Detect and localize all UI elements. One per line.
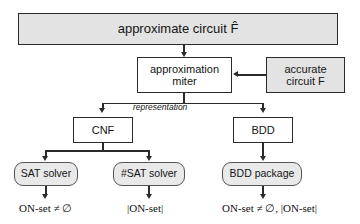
node-sat-solver-label: SAT solver [21, 168, 71, 180]
output-bdd-result: ON-set ≠ ∅, |ON-set| [222, 202, 317, 215]
node-cnf[interactable]: CNF [73, 117, 133, 143]
node-approximation-miter-line1: approximation [150, 63, 219, 75]
arrowhead-bdd-package-to-result [260, 194, 266, 199]
node-sat-solver[interactable]: SAT solver [14, 162, 78, 186]
arrowhead-cnf-to-sat [42, 156, 48, 161]
node-bdd[interactable]: BDD [233, 117, 293, 143]
node-approximate-circuit[interactable]: approximate circuit F̂ [18, 13, 338, 45]
output-sharp-sat-result: |ON-set| [127, 202, 163, 214]
node-accurate-circuit[interactable]: accurate circuit F [266, 57, 345, 93]
arrowhead-bus-to-cnf [99, 108, 105, 113]
node-approximate-circuit-label: approximate circuit F̂ [118, 22, 239, 37]
node-accurate-circuit-line2: circuit F [286, 75, 325, 87]
arrowhead-bdd-to-package [260, 156, 266, 161]
node-bdd-package-label: BDD package [230, 168, 295, 180]
node-accurate-circuit-line1: accurate [284, 63, 326, 75]
node-bdd-label: BDD [251, 124, 274, 136]
connector-bdd-to-package [262, 143, 264, 157]
connector-cnf-split-bus [45, 150, 150, 152]
arrowhead-cnf-to-sharp-sat [146, 156, 152, 161]
diagram-canvas: approximate circuit F̂ approximation mit… [0, 0, 360, 224]
arrowhead-bus-to-bdd [260, 108, 266, 113]
output-sat-result: ON-set ≠ ∅ [19, 202, 72, 215]
node-sharp-sat-solver[interactable]: #SAT solver [113, 162, 185, 186]
arrowhead-accurate-to-miter [233, 71, 238, 77]
edge-label-representation: representation [133, 102, 187, 112]
arrowhead-sharp-sat-to-result [146, 194, 152, 199]
node-bdd-package[interactable]: BDD package [222, 162, 302, 186]
node-approximation-miter-line2: miter [172, 75, 196, 87]
connector-accurate-to-miter [238, 74, 266, 76]
node-approximation-miter[interactable]: approximation miter [137, 57, 232, 93]
arrowhead-sat-to-result [42, 194, 48, 199]
node-cnf-label: CNF [92, 124, 115, 136]
node-sharp-sat-solver-label: #SAT solver [121, 168, 177, 180]
